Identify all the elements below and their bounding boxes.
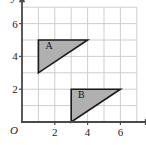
x-axis-arrow-icon [145,119,146,125]
coordinate-grid-chart: AB 246246 y x O [0,0,146,145]
origin-label: O [10,124,18,136]
x-tick-label: 4 [85,126,91,138]
x-tick-label: 2 [52,126,58,138]
y-tick-label: 2 [12,83,18,95]
shape-label-b: B [78,89,85,100]
y-tick-label: 6 [12,18,18,30]
y-axis-label: y [11,0,17,3]
y-tick-label: 4 [12,50,18,62]
shape-label-a: A [45,40,53,51]
coordinate-plane-figure: AB 246246 y x O [0,0,146,145]
x-tick-label: 6 [118,126,124,138]
y-axis-arrow-icon [19,0,25,2]
